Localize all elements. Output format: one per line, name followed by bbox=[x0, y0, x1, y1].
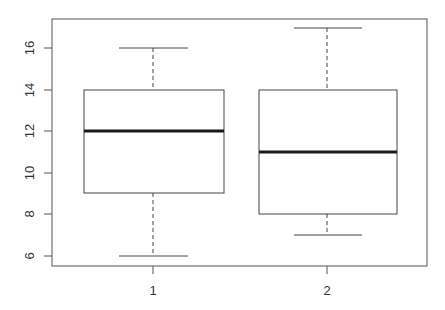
boxplot-chart: 6 8 10 12 14 16 1 2 bbox=[0, 0, 445, 310]
y-tick-label: 6 bbox=[22, 252, 37, 259]
y-axis bbox=[44, 48, 52, 256]
y-axis-labels: 6 8 10 12 14 16 bbox=[22, 41, 37, 260]
x-axis bbox=[153, 266, 327, 274]
y-tick-label: 10 bbox=[22, 166, 37, 180]
x-tick-label: 1 bbox=[149, 283, 156, 298]
x-tick-label: 2 bbox=[323, 283, 330, 298]
box-2 bbox=[259, 28, 397, 235]
y-tick-label: 16 bbox=[22, 41, 37, 55]
y-tick-label: 14 bbox=[22, 83, 37, 97]
y-tick-label: 8 bbox=[22, 210, 37, 217]
box-iqr bbox=[84, 90, 224, 193]
box-1 bbox=[84, 48, 224, 256]
y-tick-label: 12 bbox=[22, 124, 37, 138]
